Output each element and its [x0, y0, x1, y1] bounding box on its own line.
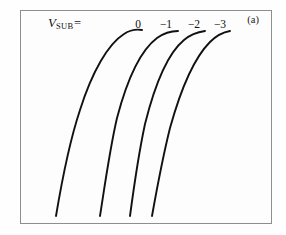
curve-label-0: 0 [128, 18, 148, 30]
curve-label-minus1: −1 [156, 18, 176, 30]
parameter-label: VSUB= [48, 15, 81, 31]
parameter-equals-sign: = [74, 16, 81, 30]
plot-frame [20, 10, 272, 224]
curve-label-minus3: −3 [210, 18, 230, 30]
figure-root: VSUB= 0 −1 −2 −3 (a) [0, 0, 286, 235]
parameter-symbol: V [48, 15, 56, 30]
parameter-subscript: SUB [56, 21, 73, 31]
panel-label: (a) [247, 14, 259, 25]
curve-label-minus2: −2 [184, 18, 204, 30]
